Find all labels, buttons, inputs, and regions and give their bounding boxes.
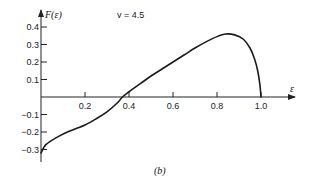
y-tick-label: −0.1 xyxy=(21,110,39,120)
y-axis-label: F(ε) xyxy=(44,9,62,21)
y-tick-label: −0.2 xyxy=(21,127,39,137)
y-ticks: 0.40.30.20.1−0.1−0.2−0.3 xyxy=(21,22,47,155)
panel-label: (b) xyxy=(154,165,166,177)
axes xyxy=(41,10,295,162)
y-tick-label: 0.1 xyxy=(26,75,39,85)
y-tick-label: −0.3 xyxy=(21,145,39,155)
y-tick-label: 0.3 xyxy=(26,40,39,50)
x-tick-label: 0.4 xyxy=(123,101,136,111)
x-tick-label: 1.0 xyxy=(255,101,268,111)
chart: 0.20.40.60.81.0 0.40.30.20.1−0.1−0.2−0.3… xyxy=(0,0,312,182)
x-tick-label: 0.8 xyxy=(211,101,224,111)
y-tick-label: 0.4 xyxy=(26,22,39,32)
series-line xyxy=(41,34,261,153)
x-tick-label: 0.6 xyxy=(167,101,180,111)
parameter-annotation: v = 4.5 xyxy=(117,10,144,20)
x-axis-label: ε xyxy=(290,83,294,94)
x-tick-label: 0.2 xyxy=(79,101,92,111)
x-ticks: 0.20.40.60.81.0 xyxy=(79,92,268,111)
y-tick-label: 0.2 xyxy=(26,57,39,67)
